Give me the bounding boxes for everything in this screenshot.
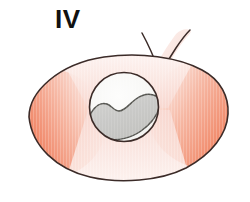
anatomical-illustration	[0, 0, 250, 202]
panel-label: IV	[55, 6, 115, 32]
figure-container: IV	[0, 0, 250, 202]
